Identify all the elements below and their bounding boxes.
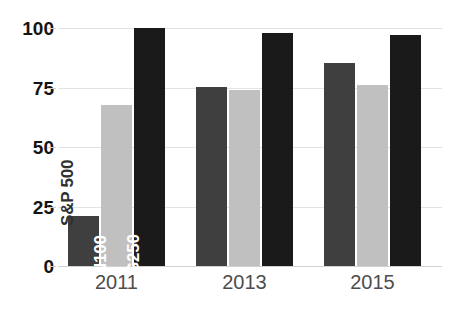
gridline-0	[58, 266, 442, 267]
bar-2013-n100	[229, 90, 260, 266]
x-tick-label-2011: 2011	[68, 272, 165, 292]
bar-label-n100: N100	[92, 235, 109, 275]
bar-chart: 100 75 50 25 0 S&P 500 N100 G250	[0, 0, 450, 310]
bar-label-sp500: S&P 500	[59, 160, 76, 226]
x-tick-label-2015: 2015	[324, 272, 421, 292]
bar-2013-sp500	[196, 87, 227, 266]
y-tick-dash-100	[47, 28, 56, 29]
bar-2015-g250	[390, 35, 421, 266]
bar-2015-n100	[357, 85, 388, 266]
y-tick-dash-0	[47, 266, 56, 267]
y-tick-dash-25	[47, 207, 56, 208]
bar-2013-g250	[262, 33, 293, 266]
y-tick-dash-50	[47, 147, 56, 148]
y-tick-dash-75	[47, 88, 56, 89]
bar-2015-sp500	[324, 63, 355, 266]
gridline-100	[58, 28, 442, 29]
bar-label-g250: G250	[125, 234, 142, 275]
x-tick-label-2013: 2013	[196, 272, 293, 292]
plot-area: S&P 500 N100 G250	[58, 18, 442, 266]
bar-2011-g250	[134, 28, 165, 266]
